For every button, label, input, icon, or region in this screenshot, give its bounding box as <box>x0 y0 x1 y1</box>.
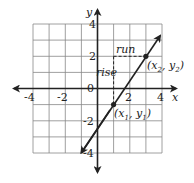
x-tick: 4 <box>157 91 164 104</box>
run-label: run <box>116 43 135 56</box>
x-tick: 2 <box>125 91 132 104</box>
x-tick: -2 <box>57 91 68 104</box>
y-tick: 2 <box>89 50 96 63</box>
x-tick: -4 <box>24 91 35 104</box>
x-tick: 0 <box>87 82 94 95</box>
point-label-2: (x2, y2) <box>147 59 184 74</box>
y-tick: -4 <box>83 147 94 160</box>
coordinate-plane: y x -4 -2 0 2 4 4 2 -2 -4 run rise (x1, … <box>0 0 194 183</box>
y-tick: 4 <box>89 18 96 31</box>
x-axis-label: x <box>172 91 179 104</box>
rise-label: rise <box>96 66 117 79</box>
y-tick: -2 <box>83 115 94 128</box>
point-label-1: (x1, y1) <box>114 107 151 122</box>
